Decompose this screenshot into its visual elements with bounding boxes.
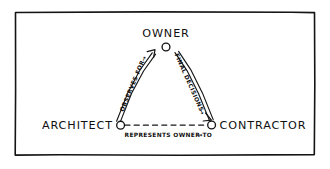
node-architect[interactable] bbox=[117, 121, 125, 129]
node-label-contractor: CONTRACTOR bbox=[220, 119, 307, 132]
node-contractor[interactable] bbox=[208, 121, 216, 129]
edge-label-group-final-decisions: FINAL DECISIONS → bbox=[173, 52, 206, 115]
edge-label-represents-owner-to-arrow-icon: → bbox=[198, 132, 203, 138]
edge-owner-to-contractor-arrowhead bbox=[203, 113, 211, 121]
node-owner[interactable] bbox=[162, 43, 170, 51]
node-label-architect: ARCHITECT bbox=[42, 119, 113, 132]
diagram-canvas: OWNER ARCHITECT CONTRACTOR OBSERVES FOR … bbox=[0, 0, 330, 169]
edge-label-final-decisions: FINAL DECISIONS bbox=[174, 52, 205, 112]
edge-label-group-represents-owner-to: REPRESENTS OWNER TO → bbox=[125, 132, 213, 138]
edge-label-group-observes-for: OBSERVES FOR → bbox=[119, 55, 148, 113]
edge-label-observes-for: OBSERVES FOR bbox=[119, 59, 146, 112]
edge-label-final-decisions-arrow-icon: → bbox=[198, 108, 206, 115]
comic-panel: OWNER ARCHITECT CONTRACTOR OBSERVES FOR … bbox=[0, 0, 330, 169]
node-label-owner: OWNER bbox=[142, 27, 190, 40]
